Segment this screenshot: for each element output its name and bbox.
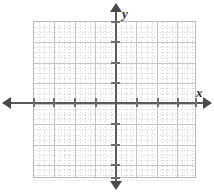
y-axis-label: y — [122, 7, 128, 20]
coordinate-plane-figure: y x — [0, 0, 214, 193]
y-axis-ticks — [0, 0, 214, 193]
x-axis-label: x — [196, 86, 203, 99]
